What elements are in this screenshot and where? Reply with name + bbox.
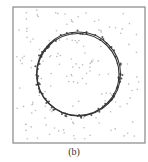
panel-caption: (b) bbox=[0, 146, 148, 158]
plot-frame bbox=[13, 7, 145, 143]
circle-fit-plot bbox=[0, 0, 148, 162]
